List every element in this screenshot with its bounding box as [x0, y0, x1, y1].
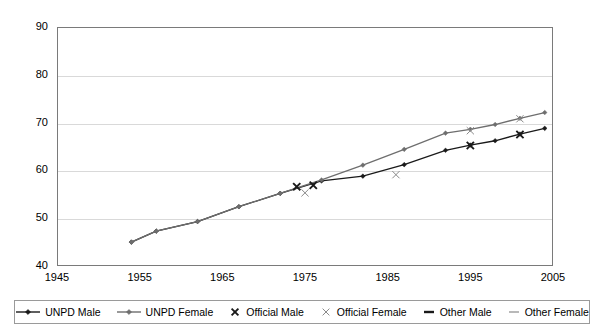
line-with-diamond-marker-icon: [116, 307, 142, 317]
x-marker-icon: [319, 307, 333, 317]
legend-item-label: Other Female: [525, 307, 589, 318]
line-with-diamond-marker-icon: [15, 307, 41, 317]
legend-item-label: UNPD Female: [146, 307, 214, 318]
y-axis-tick-label: 40: [8, 260, 48, 271]
x-axis-tick-label: 1995: [440, 272, 500, 283]
legend-item-other-male[interactable]: Other Male: [422, 307, 492, 318]
dash-marker-icon: [507, 307, 521, 317]
x-axis-tick-label: 1955: [110, 272, 170, 283]
y-axis-tick-label: 70: [8, 117, 48, 128]
x-axis-tick-label: 1985: [358, 272, 418, 283]
series-layer: [57, 27, 553, 266]
series-unpd-female: [129, 110, 547, 244]
y-axis-tick-label: 60: [8, 164, 48, 175]
legend-item-unpd-male[interactable]: UNPD Male: [15, 307, 100, 318]
legend-item-official-female[interactable]: Official Female: [319, 307, 407, 318]
x-marker-icon: [228, 307, 242, 317]
legend-item-official-male[interactable]: Official Male: [228, 307, 304, 318]
series-unpd-male: [129, 126, 547, 244]
legend-item-label: Official Male: [246, 307, 304, 318]
chart-legend: UNPD MaleUNPD FemaleOfficial MaleOfficia…: [14, 300, 590, 324]
legend-item-label: UNPD Male: [45, 307, 100, 318]
y-axis-tick-label: 90: [8, 21, 48, 32]
x-axis-tick-label: 1965: [192, 272, 252, 283]
legend-item-unpd-female[interactable]: UNPD Female: [116, 307, 214, 318]
x-axis-tick-label: 1945: [27, 272, 87, 283]
y-axis-tick-label: 80: [8, 69, 48, 80]
y-axis-tick-label: 50: [8, 212, 48, 223]
legend-item-label: Official Female: [337, 307, 407, 318]
dash-marker-icon: [422, 307, 436, 317]
legend-item-other-female[interactable]: Other Female: [507, 307, 589, 318]
x-axis-tick-label: 1975: [275, 272, 335, 283]
x-axis-tick-label: 2005: [523, 272, 583, 283]
series-official-male: [293, 131, 523, 190]
line-chart: 405060708090 194519551965197519851995200…: [0, 0, 604, 336]
series-official-female: [301, 115, 523, 196]
legend-item-label: Other Male: [440, 307, 492, 318]
